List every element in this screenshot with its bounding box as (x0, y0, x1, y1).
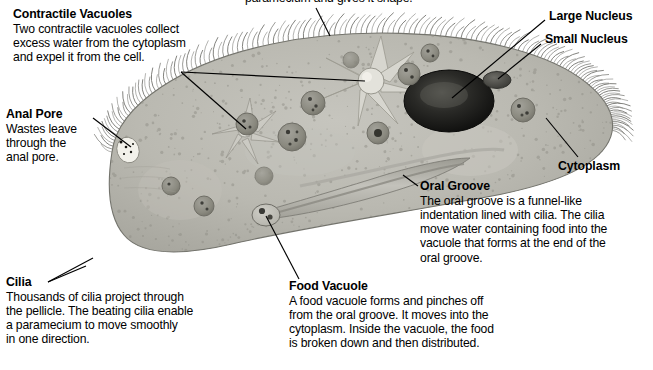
speckle (308, 25, 310, 27)
speckle (605, 121, 607, 123)
speckle (213, 252, 214, 253)
speckle (213, 256, 217, 260)
speckle (168, 146, 170, 148)
speckle (521, 157, 523, 159)
speckle (206, 230, 208, 232)
speckle (230, 236, 232, 238)
speckle (207, 157, 209, 159)
speckle (609, 149, 610, 150)
speckle (274, 96, 277, 99)
speckle (227, 219, 230, 222)
speckle (196, 107, 199, 110)
speckle (514, 94, 517, 97)
cilium (273, 29, 278, 44)
speckle (578, 124, 581, 127)
speckle (616, 144, 617, 145)
speckle (283, 200, 286, 203)
speckle (329, 54, 331, 56)
speckle (291, 72, 293, 74)
speckle (140, 257, 142, 259)
speckle (179, 233, 182, 236)
speckle (347, 106, 348, 107)
speckle (132, 81, 135, 84)
speckle (233, 233, 235, 235)
speckle (261, 65, 264, 68)
speckle (529, 81, 530, 82)
speckle (145, 136, 148, 139)
speckle (181, 102, 183, 104)
speckle (406, 220, 407, 221)
speckle (227, 85, 229, 87)
speckle (129, 235, 132, 238)
cilium (612, 130, 625, 140)
speckle (236, 170, 238, 172)
speckle (449, 41, 452, 44)
text-line: oral groove. (420, 251, 607, 265)
speckle (362, 130, 365, 133)
speckle (587, 26, 588, 27)
text-line: a paramecium to move smoothly (6, 318, 193, 332)
speckle (235, 234, 237, 236)
speckle (465, 34, 467, 36)
text-line: from the oral groove. It moves into the (289, 308, 494, 322)
cilium (104, 118, 117, 135)
speckle (336, 95, 338, 97)
speckle (217, 240, 218, 241)
speckle (290, 107, 292, 109)
speckle (241, 97, 242, 98)
speckle (378, 242, 381, 245)
speckle (520, 160, 522, 162)
speckle (371, 113, 373, 115)
speckle (324, 88, 325, 89)
speckle (516, 77, 517, 78)
speckle (217, 28, 220, 31)
cilium (127, 94, 133, 111)
speckle (376, 104, 378, 106)
speckle (142, 221, 143, 222)
speckle (221, 238, 224, 241)
speckle (244, 223, 246, 225)
speckle (496, 110, 498, 112)
cilium (605, 99, 628, 103)
speckle (271, 102, 272, 103)
speckle (380, 229, 381, 230)
speckle (144, 227, 146, 229)
speckle (112, 172, 115, 175)
speckle (600, 58, 604, 62)
speckle (358, 255, 361, 258)
text-line: is broken down and then distributed. (289, 336, 494, 350)
speckle (110, 91, 113, 94)
speckle (399, 148, 403, 152)
speckle (175, 79, 177, 81)
speckle (431, 34, 434, 37)
cilium (163, 68, 165, 84)
speckle (602, 132, 604, 134)
speckle (327, 129, 328, 130)
speckle (609, 122, 611, 124)
speckle (139, 138, 143, 142)
speckle (413, 136, 415, 138)
speckle (257, 52, 260, 55)
cilium (602, 95, 624, 99)
speckle (332, 118, 333, 119)
speckle (218, 243, 220, 245)
speckle (121, 246, 123, 248)
speckle (124, 210, 127, 213)
speckle (507, 174, 508, 175)
speckle (149, 224, 151, 226)
speckle (605, 81, 606, 82)
oral-groove-heading: Oral Groove (420, 180, 607, 194)
speckle (437, 43, 440, 46)
speckle (160, 133, 161, 134)
speckle (544, 176, 545, 177)
cilium (356, 14, 366, 33)
cilium (420, 18, 431, 35)
speckle (526, 83, 529, 86)
speckle (204, 81, 206, 83)
speckle (236, 206, 237, 207)
speckle (387, 142, 388, 143)
speckle (552, 107, 554, 109)
cilium (253, 32, 258, 49)
speckle (497, 89, 500, 92)
cilium (112, 103, 123, 124)
